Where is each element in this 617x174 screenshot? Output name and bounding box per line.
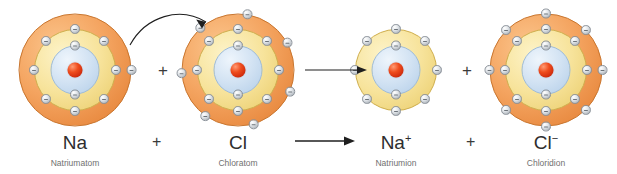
label-caption-sodium-ion: Natriumion — [375, 159, 416, 168]
label-formula-chloride-ion: Cl− — [534, 133, 558, 152]
label-caption-chlorine-atom: Chloratom — [218, 159, 257, 168]
charge-chloride-ion: − — [552, 132, 558, 144]
label-formula-sodium-atom: Na — [63, 133, 87, 152]
formula-text-sodium-atom: Na — [63, 132, 87, 153]
plus-sign-bottom-2: + — [466, 134, 475, 150]
charge-sodium-ion: + — [405, 132, 411, 144]
reaction-arrow-top — [305, 62, 375, 78]
label-caption-chloride-ion: Chloridion — [527, 159, 565, 168]
label-caption-sodium-atom: Natriumatom — [51, 159, 100, 168]
label-formula-sodium-ion: Na+ — [381, 133, 412, 152]
plus-sign-bottom-1: + — [152, 134, 161, 150]
diagram-canvas: + + Na Natriumatom Cl Chloratom Na+ Natr… — [0, 0, 617, 174]
plus-sign-top-2: + — [462, 62, 472, 79]
label-formula-chlorine-atom: Cl — [229, 133, 247, 152]
formula-text-chlorine-atom: Cl — [229, 132, 247, 153]
formula-text-chloride-ion: Cl — [534, 132, 552, 153]
plus-sign-top-1: + — [158, 62, 168, 79]
reaction-arrow-bottom — [295, 133, 365, 149]
formula-text-sodium-ion: Na — [381, 132, 405, 153]
